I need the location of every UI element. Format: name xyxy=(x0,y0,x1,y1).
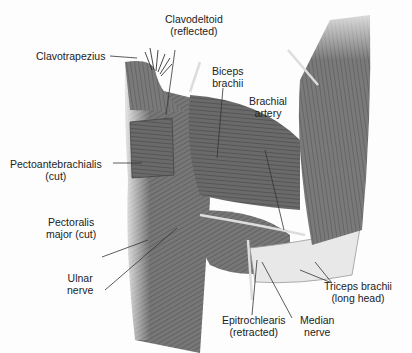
pectoantebrachialis-muscle xyxy=(130,118,174,178)
anatomy-figure: Clavodeltoid(reflected) Clavotrapezius B… xyxy=(0,0,412,353)
label-epitrochlearis: Epitrochlearis(retracted) xyxy=(222,314,286,338)
label-ulnar-nerve: Ulnarnerve xyxy=(67,272,93,296)
label-clavodeltoid: Clavodeltoid(reflected) xyxy=(165,13,223,37)
label-median-nerve: Mediannerve xyxy=(300,314,334,338)
label-biceps-brachii: Bicepsbrachii xyxy=(212,65,244,89)
label-pectoantebrachialis: Pectoantebrachialis(cut) xyxy=(10,158,102,182)
label-brachial-artery: Brachialartery xyxy=(249,95,287,119)
label-pectoralis-major: Pectoralismajor (cut) xyxy=(46,216,96,240)
label-clavotrapezius: Clavotrapezius xyxy=(36,50,105,62)
label-triceps-brachii: Triceps brachii(long head) xyxy=(324,280,392,304)
